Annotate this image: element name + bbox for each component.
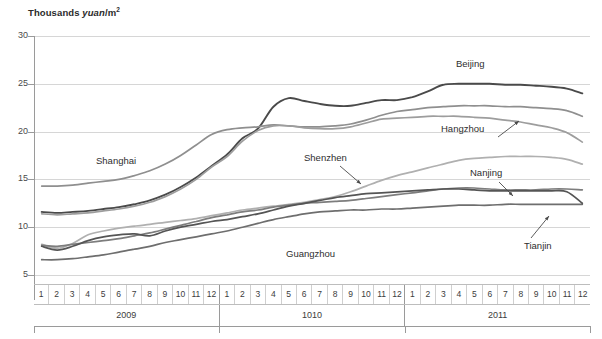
x-tick-1010-7: 7 xyxy=(311,285,326,305)
x-group-label-2009: 2009 xyxy=(34,305,219,327)
series-label-shenzhen: Shenzhen xyxy=(304,152,347,163)
series-label-shanghai: Shanghai xyxy=(96,155,136,166)
y-axis-title-sup: 2 xyxy=(116,6,120,13)
x-tick-2011-2: 2 xyxy=(420,285,435,305)
x-tick-2009-6: 6 xyxy=(110,285,125,305)
year-row-bottom-rule xyxy=(34,326,590,327)
x-tick-2011-4: 4 xyxy=(451,285,466,305)
y-axis-ticks: 30252015105 xyxy=(0,0,28,339)
x-tick-2011-12: 12 xyxy=(574,285,589,305)
series-line-beijing xyxy=(42,84,583,213)
y-tick-mark-15 xyxy=(28,179,34,180)
x-tick-2011-8: 8 xyxy=(513,285,528,305)
x-tick-2011-5: 5 xyxy=(466,285,481,305)
x-tick-2011-7: 7 xyxy=(497,285,512,305)
year-tick-2011 xyxy=(405,326,406,333)
y-tick-mark-25 xyxy=(28,84,34,85)
x-tick-2009-5: 5 xyxy=(95,285,110,305)
series-label-hangzhou: Hangzhou xyxy=(441,123,484,134)
year-tick-end xyxy=(590,326,591,333)
x-tick-2009-1: 1 xyxy=(34,285,48,305)
y-tick-mark-5 xyxy=(28,275,34,276)
y-tick-mark-30 xyxy=(28,36,34,37)
x-tick-1010-8: 8 xyxy=(327,285,342,305)
y-axis-title-lead: Thousands xyxy=(28,7,82,18)
series-line-tianjin xyxy=(42,189,583,250)
x-tick-2009-11: 11 xyxy=(188,285,203,305)
x-tick-1010-12: 12 xyxy=(389,285,404,305)
x-group-label-1010: 1010 xyxy=(219,305,405,327)
x-tick-1010-6: 6 xyxy=(296,285,311,305)
y-tick-25: 25 xyxy=(4,78,28,88)
x-tick-2011-6: 6 xyxy=(482,285,497,305)
x-tick-2009-12: 12 xyxy=(203,285,218,305)
x-tick-1010-9: 9 xyxy=(342,285,357,305)
y-axis-title-tail: /m xyxy=(105,7,116,18)
x-tick-2011-9: 9 xyxy=(528,285,543,305)
x-tick-2009-9: 9 xyxy=(157,285,172,305)
x-tick-2009-7: 7 xyxy=(126,285,141,305)
x-tick-1010-3: 3 xyxy=(250,285,265,305)
y-axis-title: Thousands yuan/m2 xyxy=(28,6,120,18)
gridline-5 xyxy=(34,275,590,276)
x-tick-2009-3: 3 xyxy=(64,285,79,305)
x-tick-2009-10: 10 xyxy=(172,285,187,305)
x-tick-1010-11: 11 xyxy=(373,285,388,305)
series-label-beijing: Beijing xyxy=(456,58,485,69)
x-tick-2009-8: 8 xyxy=(141,285,156,305)
x-tick-2011-10: 10 xyxy=(543,285,558,305)
series-label-nanjing: Nanjing xyxy=(470,167,502,178)
year-tick-2009 xyxy=(34,326,35,333)
x-tick-2009-4: 4 xyxy=(79,285,94,305)
y-tick-5: 5 xyxy=(4,269,28,279)
y-axis-title-italic: yuan xyxy=(82,7,105,18)
x-tick-1010-1: 1 xyxy=(219,285,234,305)
y-tick-mark-20 xyxy=(28,132,34,133)
x-tick-2011-3: 3 xyxy=(435,285,450,305)
y-tick-10: 10 xyxy=(4,221,28,231)
line-chart: Thousands yuan/m2 30252015105 1234567891… xyxy=(0,0,602,339)
x-tick-1010-2: 2 xyxy=(234,285,249,305)
y-tick-30: 30 xyxy=(4,30,28,40)
series-label-guangzhou: Guangzhou xyxy=(286,248,335,259)
series-label-tianjin: Tianjin xyxy=(524,240,552,251)
year-tick-1010 xyxy=(219,326,220,333)
x-tick-1010-5: 5 xyxy=(281,285,296,305)
x-tick-2009-2: 2 xyxy=(48,285,63,305)
y-tick-15: 15 xyxy=(4,173,28,183)
x-axis-month-labels: 1234567891011121234567891011121234567891… xyxy=(34,285,590,305)
series-line-nanjing xyxy=(42,188,583,246)
x-axis-year-labels: 200910102011 xyxy=(34,305,590,327)
y-tick-20: 20 xyxy=(4,126,28,136)
x-tick-1010-10: 10 xyxy=(358,285,373,305)
x-tick-2011-1: 1 xyxy=(404,285,419,305)
x-group-label-2011: 2011 xyxy=(404,305,590,327)
x-tick-1010-4: 4 xyxy=(265,285,280,305)
y-tick-mark-10 xyxy=(28,227,34,228)
x-tick-2011-11: 11 xyxy=(559,285,574,305)
